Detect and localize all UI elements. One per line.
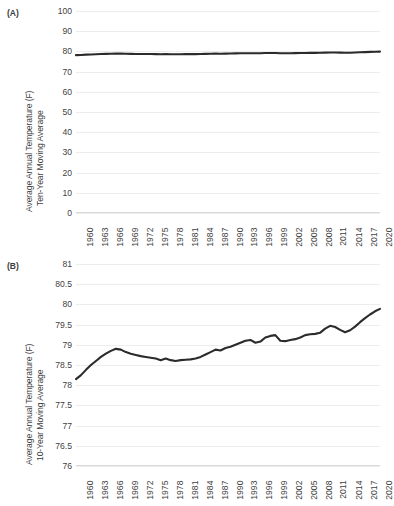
x-tick-label: 1987 <box>220 481 229 500</box>
x-tick-label: 2005 <box>310 228 319 247</box>
x-tick-label: 1993 <box>250 481 259 500</box>
x-tick-label: 2020 <box>385 228 394 247</box>
x-tick-label: 2017 <box>370 228 379 247</box>
gridline <box>76 213 380 214</box>
y-tick-label: 30 <box>12 148 72 157</box>
x-tick-label: 1960 <box>86 481 95 500</box>
y-tick-label: 90 <box>12 27 72 36</box>
y-tick-label: 76.5 <box>12 442 72 451</box>
y-tick-label: 50 <box>12 108 72 117</box>
y-tick-label: 70 <box>12 67 72 76</box>
y-tick-label: 80 <box>12 47 72 56</box>
panel-a-plot-area <box>76 11 380 213</box>
y-tick-label: 79.5 <box>12 320 72 329</box>
x-tick-label: 1990 <box>235 228 244 247</box>
x-tick-label: 2011 <box>339 480 348 498</box>
x-tick-label: 1975 <box>160 228 169 247</box>
x-tick-label: 1987 <box>220 228 229 247</box>
x-tick-label: 2008 <box>325 481 334 500</box>
x-tick-label: 2014 <box>355 228 364 247</box>
x-tick-label: 1969 <box>130 481 139 500</box>
x-tick-label: 1969 <box>130 228 139 247</box>
panel-a-x-axis-ticks: 1960196319661969197219751978198119841987… <box>76 216 380 252</box>
x-tick-label: 2017 <box>370 481 379 500</box>
x-tick-label: 1978 <box>175 228 184 247</box>
y-tick-label: 40 <box>12 128 72 137</box>
x-tick-label: 1981 <box>190 481 199 500</box>
y-tick-label: 81 <box>12 260 72 269</box>
y-tick-label: 80 <box>12 300 72 309</box>
y-tick-label: 79 <box>12 341 72 350</box>
x-tick-label: 2002 <box>295 481 304 500</box>
panel-a-series-line <box>76 11 380 213</box>
panel-b-plot-area <box>76 264 380 466</box>
y-tick-label: 80.5 <box>12 280 72 289</box>
y-tick-label: 60 <box>12 88 72 97</box>
y-tick-label: 20 <box>12 168 72 177</box>
x-tick-label: 2008 <box>325 228 334 247</box>
x-tick-label: 2014 <box>355 481 364 500</box>
x-tick-label: 1963 <box>101 481 110 500</box>
x-tick-label: 2020 <box>385 481 394 500</box>
x-tick-label: 1966 <box>115 228 124 247</box>
x-tick-label: 1984 <box>205 228 214 247</box>
x-tick-label: 1999 <box>280 481 289 500</box>
x-tick-label: 2011 <box>339 227 348 245</box>
y-tick-label: 0 <box>12 209 72 218</box>
gridline <box>76 466 380 467</box>
x-tick-label: 1975 <box>160 481 169 500</box>
x-tick-label: 1996 <box>265 481 274 500</box>
x-tick-label: 1972 <box>145 481 154 500</box>
y-tick-label: 10 <box>12 189 72 198</box>
panel-b: (B) Average Annual Temperature (F) 10-Ye… <box>0 253 387 506</box>
x-tick-label: 1978 <box>175 481 184 500</box>
x-tick-label: 1963 <box>101 228 110 247</box>
panel-b-x-axis-ticks: 1960196319661969197219751978198119841987… <box>76 469 380 505</box>
y-tick-label: 78.5 <box>12 361 72 370</box>
y-tick-label: 76 <box>12 462 72 471</box>
y-tick-label: 78 <box>12 381 72 390</box>
x-tick-label: 2002 <box>295 228 304 247</box>
panel-b-series-line <box>76 264 380 466</box>
x-tick-label: 1966 <box>115 481 124 500</box>
y-tick-label: 77 <box>12 421 72 430</box>
x-tick-label: 1960 <box>86 228 95 247</box>
y-tick-label: 77.5 <box>12 401 72 410</box>
x-tick-label: 1999 <box>280 228 289 247</box>
panel-a: (A) Average Annual Temperature (F) Ten-Y… <box>0 0 387 253</box>
y-tick-label: 100 <box>12 7 72 16</box>
x-tick-label: 1984 <box>205 481 214 500</box>
x-tick-label: 1993 <box>250 228 259 247</box>
x-tick-label: 1996 <box>265 228 274 247</box>
x-tick-label: 1990 <box>235 481 244 500</box>
x-tick-label: 2005 <box>310 481 319 500</box>
x-tick-label: 1981 <box>190 228 199 247</box>
x-tick-label: 1972 <box>145 228 154 247</box>
